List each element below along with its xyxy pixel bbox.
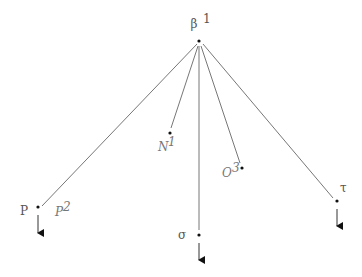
node-extra-sup: 2 bbox=[62, 200, 71, 214]
node-label: σ bbox=[178, 228, 186, 242]
node-N: N 1 bbox=[157, 131, 176, 154]
edge-root-O bbox=[201, 46, 240, 163]
node-dot bbox=[335, 199, 338, 202]
node-O: O 3 bbox=[222, 161, 244, 180]
node-dot bbox=[36, 205, 39, 208]
node-dot bbox=[240, 166, 243, 169]
node-label: P bbox=[20, 204, 28, 218]
node-sigma: σ bbox=[178, 228, 201, 260]
node-label: τ bbox=[340, 181, 347, 195]
node-P: P P 2 bbox=[20, 200, 71, 233]
node-label: O bbox=[222, 166, 232, 180]
tree-diagram: β 1 P P 2 N 1 σ O 3 τ bbox=[0, 0, 362, 277]
node-dot bbox=[197, 233, 200, 236]
edge-root-N bbox=[171, 46, 198, 128]
node-label-sup: 1 bbox=[168, 135, 176, 149]
node-label-sup: 1 bbox=[203, 12, 211, 26]
node-beta: β 1 bbox=[191, 12, 211, 43]
edge-root-P bbox=[42, 44, 197, 206]
node-dot bbox=[197, 39, 200, 42]
node-label-sup: 3 bbox=[232, 161, 240, 175]
node-label: β bbox=[191, 17, 198, 31]
node-tau: τ bbox=[335, 181, 347, 226]
